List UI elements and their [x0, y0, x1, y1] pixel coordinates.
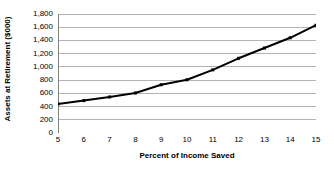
y-tick-label: 600	[40, 89, 53, 97]
data-point-marker	[82, 99, 85, 102]
y-axis-title-label: Assets at Retirement ($000)	[4, 17, 12, 122]
y-axis-title: Assets at Retirement ($000)	[0, 0, 16, 138]
y-tick-label: 800	[40, 76, 53, 84]
data-point-marker	[108, 95, 111, 98]
data-series-line	[58, 25, 316, 104]
plot-svg	[58, 14, 316, 133]
y-tick-label: 1,800	[33, 10, 53, 18]
x-tick-label: 5	[56, 136, 60, 144]
data-point-marker	[237, 57, 240, 60]
x-tick-label: 12	[234, 136, 243, 144]
x-tick-label: 7	[107, 136, 111, 144]
data-point-marker	[263, 47, 266, 50]
y-tick-label: 400	[40, 103, 53, 111]
x-tick-label: 10	[183, 136, 192, 144]
data-point-marker	[58, 102, 60, 105]
y-tick-label: 1,200	[33, 50, 53, 58]
data-point-marker	[289, 36, 292, 39]
x-tick-label: 13	[260, 136, 269, 144]
x-tick-label: 8	[133, 136, 137, 144]
data-point-marker	[211, 68, 214, 71]
x-tick-label: 6	[82, 136, 86, 144]
x-tick-label: 14	[286, 136, 295, 144]
x-tick-label: 9	[159, 136, 163, 144]
data-point-marker	[315, 24, 317, 27]
x-tick-label: 11	[209, 136, 217, 144]
data-point-marker	[160, 83, 163, 86]
x-axis-tick-labels: 56789101112131415	[58, 136, 316, 148]
axis-lines	[58, 14, 316, 133]
plot-area	[58, 14, 316, 133]
gridlines	[58, 14, 316, 120]
line-chart: Assets at Retirement ($000) 020040060080…	[0, 0, 334, 172]
y-tick-label: 1,400	[33, 36, 53, 44]
data-point-marker	[186, 78, 189, 81]
y-tick-label: 1,000	[33, 63, 53, 71]
y-tick-label: 200	[40, 116, 53, 124]
data-point-marker	[134, 92, 137, 95]
x-tick-label: 15	[312, 136, 321, 144]
y-tick-label: 0	[49, 129, 53, 137]
y-tick-label: 1,600	[33, 23, 53, 31]
y-axis-tick-labels: 02004006008001,0001,2001,4001,6001,800	[16, 10, 56, 136]
x-axis-title: Percent of Income Saved	[58, 152, 316, 160]
